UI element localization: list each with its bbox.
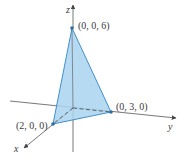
y-axis-label: y [167, 121, 173, 132]
point-label-0-0-6: (0, 0, 6) [78, 20, 110, 32]
point-0-0-6 [70, 26, 74, 30]
point-2-0-0 [51, 122, 55, 126]
point-0-3-0 [109, 110, 113, 114]
x-axis-label: x [13, 143, 19, 154]
point-label-2-0-0: (2, 0, 0) [16, 120, 48, 132]
point-label-0-3-0: (0, 3, 0) [116, 101, 148, 113]
z-axis-label: z [65, 4, 70, 15]
triangle-face [53, 28, 111, 124]
tetrahedron-diagram: z y x (0, 0, 6) (0, 3, 0) (2, 0, 0) [0, 0, 188, 163]
